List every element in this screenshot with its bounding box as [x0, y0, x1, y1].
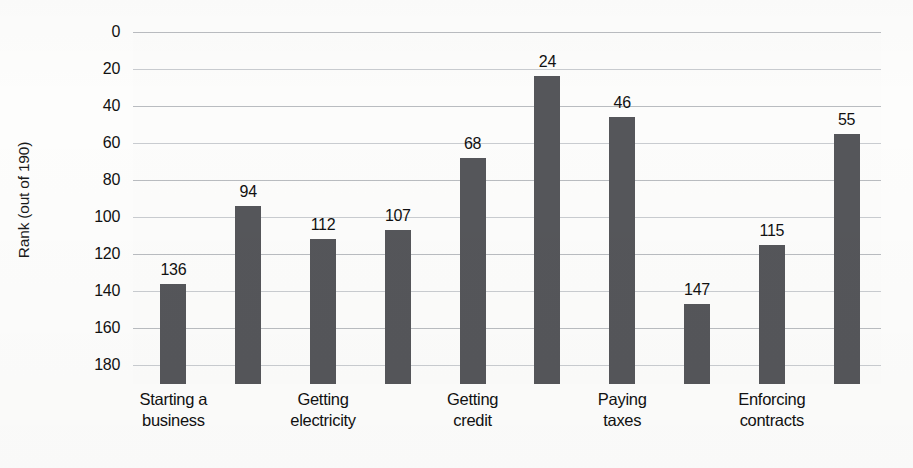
- bar-value-label: 94: [240, 183, 257, 201]
- bar[interactable]: [460, 158, 486, 384]
- bar[interactable]: [759, 245, 785, 384]
- bar-value-label: 68: [464, 135, 481, 153]
- y-axis-tick-label: 20: [103, 60, 120, 78]
- plot-area: 1369411210768244614711555: [133, 32, 881, 384]
- x-axis-tick-label: Gettingcredit: [447, 389, 498, 431]
- x-axis-tick-label: Gettingelectricity: [290, 389, 355, 431]
- bar[interactable]: [235, 206, 261, 384]
- y-axis-tick-label: 120: [94, 245, 120, 263]
- bar-value-label: 46: [614, 94, 631, 112]
- bars-layer: 1369411210768244614711555: [133, 32, 881, 384]
- bar-value-label: 147: [684, 281, 710, 299]
- y-axis-tick-labels: 020406080100120140160180: [52, 0, 132, 468]
- bar-value-label: 55: [838, 111, 855, 129]
- bar-chart: Rank (out of 190) 0204060801001201401601…: [0, 0, 913, 468]
- x-axis-tick-labels: Starting abusinessGettingelectricityGett…: [133, 389, 881, 459]
- x-axis-tick-label: Starting abusiness: [140, 389, 208, 431]
- x-axis-tick-label-line1: Enforcing: [738, 389, 805, 410]
- x-axis-tick-label-line2: business: [140, 410, 208, 431]
- bar[interactable]: [385, 230, 411, 384]
- y-axis-title-text: Rank (out of 190): [15, 142, 33, 258]
- y-axis-tick-label: 0: [111, 23, 120, 41]
- x-axis-tick-label-line2: electricity: [290, 410, 355, 431]
- x-axis-tick-label-line1: Getting: [447, 389, 498, 410]
- bar[interactable]: [160, 284, 186, 384]
- bar[interactable]: [609, 117, 635, 384]
- x-axis-tick-label: Payingtaxes: [598, 389, 647, 431]
- y-axis-tick-label: 60: [103, 134, 120, 152]
- bar-value-label: 107: [385, 207, 411, 225]
- bar-value-label: 136: [160, 261, 186, 279]
- bar[interactable]: [310, 239, 336, 384]
- y-axis-title: Rank (out of 190): [0, 0, 48, 400]
- bar-value-label: 112: [311, 216, 336, 234]
- x-axis-tick-label-line1: Getting: [290, 389, 355, 410]
- y-axis-tick-label: 100: [94, 208, 120, 226]
- bar[interactable]: [834, 134, 860, 384]
- bar-value-label: 115: [759, 222, 784, 240]
- y-axis-tick-label: 80: [103, 171, 120, 189]
- bar-value-label: 24: [539, 53, 556, 71]
- bar[interactable]: [534, 76, 560, 384]
- x-axis-tick-label-line1: Paying: [598, 389, 647, 410]
- x-axis-tick-label: Enforcingcontracts: [738, 389, 805, 431]
- x-axis-tick-label-line2: credit: [447, 410, 498, 431]
- y-axis-tick-label: 180: [94, 356, 120, 374]
- bar[interactable]: [684, 304, 710, 384]
- x-axis-tick-label-line2: taxes: [598, 410, 647, 431]
- y-axis-tick-label: 140: [94, 282, 120, 300]
- x-axis-tick-label-line1: Starting a: [140, 389, 208, 410]
- y-axis-tick-label: 160: [94, 319, 120, 337]
- x-axis-tick-label-line2: contracts: [738, 410, 805, 431]
- y-axis-tick-label: 40: [103, 97, 120, 115]
